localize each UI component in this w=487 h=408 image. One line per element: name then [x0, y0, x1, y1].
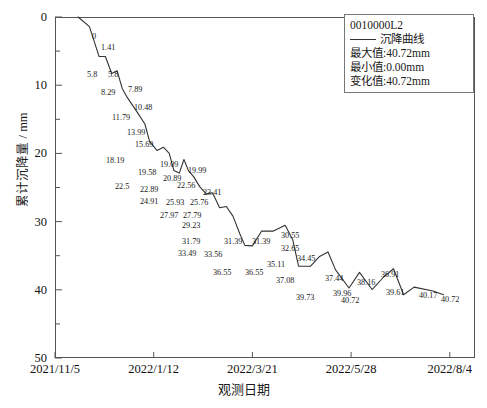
legend-id-label: 0010000L2 [350, 18, 468, 32]
data-point-label: 11.79 [112, 114, 130, 122]
data-point-label: 40.72 [341, 297, 359, 305]
data-point-label: 5.8 [87, 71, 97, 79]
data-point-label: 27.97 [160, 212, 178, 220]
data-point-label: 10.48 [134, 104, 152, 112]
data-point-label: 25.93 [166, 199, 184, 207]
data-point-label: 30.55 [281, 232, 299, 240]
data-point-label: 40.17 [419, 292, 437, 300]
data-point-label: 39.61 [386, 289, 404, 297]
y-tick-label: 0 [13, 11, 47, 24]
data-point-label: 19.99 [188, 167, 206, 175]
data-point-label: 31.39 [252, 238, 270, 246]
data-point-label: 19.09 [160, 161, 178, 169]
legend-line-swatch-icon [350, 39, 376, 40]
data-point-label: 13.99 [127, 129, 145, 137]
data-point-label: 32.65 [281, 245, 299, 253]
legend-max-value: 最大值:40.72mm [350, 46, 468, 60]
data-point-label: 29.23 [182, 222, 200, 230]
data-point-label: 38.16 [357, 279, 375, 287]
data-point-label: 33.56 [204, 251, 222, 259]
data-point-label: 1.41 [101, 44, 115, 52]
data-point-label: 23.41 [203, 189, 221, 197]
data-point-label: 19.58 [138, 169, 156, 177]
data-point-label: 36.91 [381, 271, 399, 279]
x-tick-label: 2022/5/28 [307, 363, 395, 376]
data-point-label: 7.89 [128, 86, 142, 94]
y-tick-label: 30 [13, 216, 47, 229]
x-tick-label: 2021/11/5 [11, 363, 99, 376]
data-point-label: 36.55 [245, 269, 263, 277]
data-point-label: 18.19 [106, 157, 124, 165]
data-point-label: 0 [92, 33, 96, 41]
data-point-label: 37.08 [276, 277, 294, 285]
legend-min-value: 最小值:0.00mm [350, 60, 468, 74]
legend-series-entry: 沉降曲线 [350, 32, 468, 46]
y-tick-label: 40 [13, 284, 47, 297]
data-point-label: 37.44 [325, 275, 343, 283]
data-point-label: 15.69 [135, 141, 153, 149]
data-point-label: 24.91 [140, 198, 158, 206]
legend-box: 0010000L2 沉降曲线 最大值:40.72mm 最小值:0.00mm 变化… [344, 14, 474, 93]
data-point-label: 22.56 [177, 182, 195, 190]
data-point-label: 22.5 [115, 183, 129, 191]
data-point-label: 34.45 [297, 255, 315, 263]
legend-change-value: 变化值:40.72mm [350, 74, 468, 88]
data-point-label: 35.11 [267, 261, 285, 269]
data-point-label: 22.89 [140, 186, 158, 194]
legend-series-name: 沉降曲线 [380, 32, 424, 46]
data-point-label: 33.49 [178, 250, 196, 258]
chart-figure: 01020304050 2021/11/52022/1/122022/3/212… [0, 0, 487, 408]
data-point-label: 31.39 [224, 238, 242, 246]
x-tick-label: 2022/3/21 [208, 363, 296, 376]
data-point-label: 39.73 [296, 294, 314, 302]
data-point-label: 8.29 [101, 89, 115, 97]
data-point-label: 40.72 [441, 296, 459, 304]
x-tick-label: 2022/1/12 [110, 363, 198, 376]
x-axis-title: 观测日期 [0, 379, 487, 398]
y-axis-title: 累计沉降量 / mm [12, 105, 31, 215]
x-tick-label: 2022/8/4 [406, 363, 487, 376]
data-point-label: 25.76 [190, 199, 208, 207]
data-point-label: 31.79 [182, 238, 200, 246]
y-tick-label: 10 [13, 79, 47, 92]
data-point-label: 36.55 [213, 269, 231, 277]
data-point-label: 27.79 [183, 212, 201, 220]
data-point-label: 5.8 [108, 71, 118, 79]
